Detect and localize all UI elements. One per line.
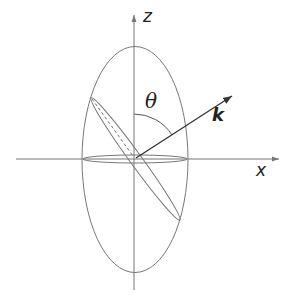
theta-arc xyxy=(134,114,172,135)
x-axis-label: x xyxy=(256,162,266,179)
dashed-major-axis-line xyxy=(92,99,133,156)
diagram-canvas xyxy=(0,0,292,297)
k-vector-label: k xyxy=(212,106,224,124)
z-axis-label: z xyxy=(143,8,152,25)
theta-angle-label: θ xyxy=(145,91,157,111)
